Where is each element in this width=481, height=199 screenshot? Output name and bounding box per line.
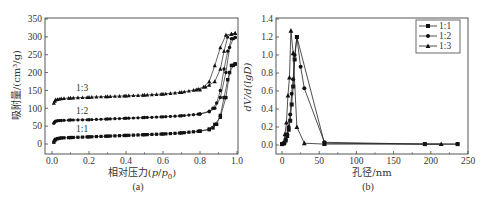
square-marker xyxy=(215,123,218,126)
circle-marker xyxy=(132,116,135,119)
circle-marker xyxy=(295,35,299,39)
square-marker xyxy=(86,135,89,138)
x-tick-label: 250 xyxy=(461,156,476,166)
circle-marker xyxy=(160,115,163,118)
circle-marker xyxy=(155,116,158,119)
circle-marker xyxy=(99,118,102,121)
triangle-marker xyxy=(294,124,299,129)
figure: 050100150200250300350 0.00.20.40.60.81.0… xyxy=(0,0,481,199)
square-marker xyxy=(208,128,211,131)
x-tick-label: 0.0 xyxy=(46,156,58,166)
y-tick-label: 0.0 xyxy=(261,140,273,150)
triangle-marker xyxy=(222,49,226,53)
x-tick-label: 0.8 xyxy=(194,156,206,166)
x-tick-label: 1.0 xyxy=(231,156,243,166)
triangle-marker xyxy=(213,79,217,83)
triangle-marker xyxy=(218,45,222,49)
circle-marker xyxy=(187,113,190,116)
circle-marker xyxy=(67,119,70,122)
y-tick-label: 0.4 xyxy=(261,104,273,114)
x-tick-label: 0 xyxy=(280,156,285,166)
circle-marker xyxy=(164,115,167,118)
triangle-marker xyxy=(207,79,211,83)
circle-marker xyxy=(90,118,93,121)
circle-marker xyxy=(109,117,112,120)
square-marker xyxy=(72,136,75,139)
square-marker xyxy=(222,96,225,99)
circle-marker xyxy=(219,96,222,99)
x-tick-label: 0.4 xyxy=(120,156,132,166)
square-marker xyxy=(104,135,107,138)
circle-marker xyxy=(169,115,172,118)
circle-marker xyxy=(219,89,222,92)
series-annotation: 1:3 xyxy=(76,83,88,93)
panel-b-pore-size-chart: 0.00.20.40.60.81.01.21.4 050100150200250… xyxy=(242,14,475,193)
square-marker xyxy=(76,136,79,139)
square-marker xyxy=(197,130,200,133)
caption-b: (b) xyxy=(362,181,374,193)
triangle-marker xyxy=(218,67,222,71)
x-axis-b: 050100150200250 xyxy=(280,151,476,166)
circle-marker xyxy=(86,118,89,121)
circle-marker xyxy=(211,107,214,110)
square-marker xyxy=(109,134,112,137)
legend-label: 1:1 xyxy=(439,21,451,31)
triangle-marker xyxy=(233,31,237,35)
square-marker xyxy=(155,133,158,136)
square-marker xyxy=(230,64,233,67)
circle-marker xyxy=(197,113,200,116)
square-marker xyxy=(211,126,214,129)
circle-marker xyxy=(302,86,306,90)
x-tick-label: 100 xyxy=(349,156,364,166)
series-annotation: 1:1 xyxy=(76,124,88,134)
circle-marker xyxy=(215,101,218,104)
circle-marker xyxy=(299,65,303,69)
series-annotation: 1:2 xyxy=(76,106,88,116)
circle-marker xyxy=(178,114,181,117)
square-marker xyxy=(123,134,126,137)
square-marker xyxy=(62,136,65,139)
square-marker xyxy=(288,119,292,123)
circle-marker xyxy=(183,114,186,117)
circle-marker xyxy=(208,109,211,112)
x-axis-a: 0.00.20.40.60.81.0 xyxy=(46,151,243,166)
square-marker xyxy=(160,132,163,135)
y-tick-label: 1.0 xyxy=(261,50,273,60)
legend: 1:11:21:3 xyxy=(416,20,460,53)
circle-marker xyxy=(288,112,292,116)
square-marker xyxy=(183,131,186,134)
series-annotations: 1:31:21:1 xyxy=(76,83,88,133)
circle-marker xyxy=(287,125,291,129)
triangle-marker xyxy=(287,75,292,80)
square-marker xyxy=(127,134,130,137)
y-tick-label: 0.6 xyxy=(261,86,273,96)
square-marker xyxy=(219,114,222,117)
x-tick-label: 150 xyxy=(386,156,401,166)
circle-marker xyxy=(226,49,229,52)
x-axis-label-a: 相对压力(p/p0) xyxy=(108,166,177,181)
square-marker xyxy=(187,131,190,134)
y-axis-label-a: 吸附量/(cm³/g) xyxy=(10,50,22,120)
circle-marker xyxy=(230,37,233,40)
circle-marker xyxy=(72,118,75,121)
triangle-marker xyxy=(207,83,211,87)
legend-box xyxy=(416,20,460,53)
caption-a: (a) xyxy=(132,181,143,193)
circle-marker xyxy=(233,36,236,39)
y-tick-label: 150 xyxy=(28,86,43,96)
y-tick-label: 300 xyxy=(28,32,43,42)
square-marker xyxy=(67,136,70,139)
square-marker xyxy=(178,131,181,134)
square-marker xyxy=(118,134,121,137)
square-marker xyxy=(164,132,167,135)
circle-marker xyxy=(104,117,107,120)
y-tick-label: 100 xyxy=(28,104,43,114)
circle-marker xyxy=(224,71,227,74)
circle-marker xyxy=(173,115,176,118)
square-marker xyxy=(146,133,149,136)
legend-label: 1:2 xyxy=(439,31,451,41)
circle-marker xyxy=(290,92,294,96)
x-tick-label: 50 xyxy=(314,156,324,166)
triangle-marker xyxy=(286,93,291,98)
y-axis-label-b: dV/d(lgD) xyxy=(242,63,253,112)
